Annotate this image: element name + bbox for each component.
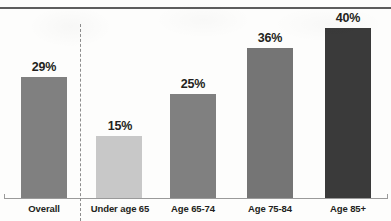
bar-age-85-plus[interactable] — [325, 28, 371, 199]
bar-chart: 29% 15% 25% 36% 40% Overall Under age 65… — [0, 0, 391, 221]
overall-group-divider — [80, 24, 81, 221]
bar-age-65-74[interactable] — [170, 94, 216, 199]
category-label-age-85-plus: Age 85+ — [310, 203, 386, 214]
x-axis-tick-left — [4, 194, 5, 199]
x-axis-line — [4, 198, 388, 199]
bar-value-label: 29% — [6, 60, 82, 74]
bar-overall[interactable] — [21, 77, 67, 199]
category-label-age-75-84: Age 75-84 — [232, 203, 308, 214]
bar-value-label: 15% — [82, 119, 158, 133]
bar-age-75-84[interactable] — [247, 48, 293, 199]
category-label-under-age-65: Under age 65 — [82, 203, 158, 214]
category-label-overall: Overall — [6, 203, 82, 214]
bar-under-age-65[interactable] — [96, 136, 142, 199]
bar-value-label: 25% — [155, 77, 231, 91]
plot-area: 29% 15% 25% 36% 40% Overall Under age 65… — [0, 0, 391, 221]
x-axis-tick-right — [387, 194, 388, 199]
bar-value-label: 36% — [232, 31, 308, 45]
bar-value-label: 40% — [310, 11, 386, 25]
category-label-age-65-74: Age 65-74 — [155, 203, 231, 214]
